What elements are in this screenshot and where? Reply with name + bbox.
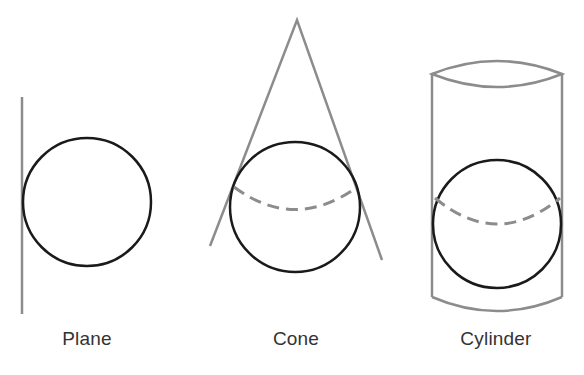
tangent-line-dashed <box>435 198 560 224</box>
globe-circle <box>23 138 151 266</box>
cone-label: Cone <box>273 328 319 350</box>
cylinder-bottom-rim <box>432 297 562 311</box>
tangent-line-dashed <box>234 187 357 210</box>
plane-label: Plane <box>62 328 112 350</box>
cone-surface <box>210 20 382 260</box>
projection-surfaces-diagram <box>0 0 584 375</box>
cylinder-top-rim <box>432 61 562 87</box>
cylinder-panel <box>432 61 562 311</box>
plane-panel <box>22 97 151 314</box>
cone-panel <box>210 20 382 272</box>
cylinder-label: Cylinder <box>460 328 531 350</box>
globe-circle <box>230 142 360 272</box>
